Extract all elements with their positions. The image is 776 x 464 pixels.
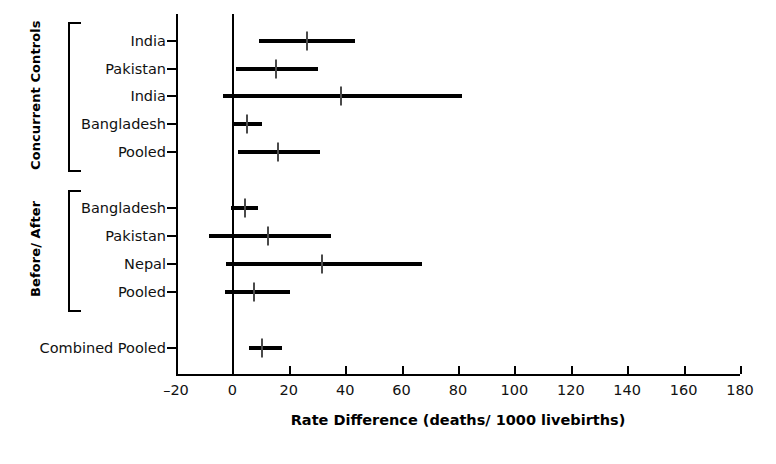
point-estimate-marker bbox=[277, 142, 279, 161]
zero-reference-line bbox=[232, 14, 234, 374]
category-label: Pooled bbox=[118, 284, 166, 299]
category-labels: IndiaPakistanIndiaBangladeshPooledBangla… bbox=[0, 0, 166, 464]
x-axis-tick bbox=[402, 366, 404, 374]
x-axis-tick bbox=[514, 366, 516, 374]
point-estimate-marker bbox=[261, 339, 263, 358]
category-label: India bbox=[130, 89, 166, 104]
x-axis-tick bbox=[458, 366, 460, 374]
category-axis-tick bbox=[167, 263, 176, 265]
x-axis-line bbox=[176, 374, 740, 376]
category-label: India bbox=[130, 34, 166, 49]
x-axis-tick-label: 60 bbox=[392, 382, 410, 398]
x-axis-tick bbox=[684, 366, 686, 374]
category-label: Pakistan bbox=[105, 228, 166, 243]
x-axis-tick-label: 20 bbox=[280, 382, 298, 398]
category-axis-tick bbox=[167, 40, 176, 42]
confidence-interval-bar bbox=[225, 290, 290, 294]
point-estimate-marker bbox=[306, 32, 308, 51]
x-axis-title: Rate Difference (deaths/ 1000 livebirths… bbox=[291, 412, 626, 428]
category-axis-tick bbox=[167, 95, 176, 97]
x-axis-tick-label: 160 bbox=[670, 382, 698, 398]
point-estimate-marker bbox=[267, 226, 269, 245]
category-label: Pakistan bbox=[105, 61, 166, 76]
confidence-interval-bar bbox=[209, 234, 330, 238]
x-axis-tick-label: 100 bbox=[501, 382, 529, 398]
x-axis-tick-label: –20 bbox=[163, 382, 189, 398]
category-label: Bangladesh bbox=[81, 201, 166, 216]
x-axis-tick-label: 80 bbox=[449, 382, 467, 398]
category-label: Combined Pooled bbox=[40, 341, 166, 356]
category-label: Nepal bbox=[124, 256, 166, 271]
confidence-interval-bar bbox=[223, 94, 463, 98]
x-axis-tick bbox=[176, 366, 178, 374]
x-axis-tick-label: 140 bbox=[613, 382, 641, 398]
category-label: Pooled bbox=[118, 144, 166, 159]
x-axis-tick bbox=[289, 366, 291, 374]
category-label: Bangladesh bbox=[81, 117, 166, 132]
point-estimate-marker bbox=[321, 254, 323, 273]
category-axis-tick bbox=[167, 68, 176, 70]
category-axis-tick bbox=[167, 347, 176, 349]
x-axis-tick-label: 120 bbox=[557, 382, 585, 398]
category-axis-tick bbox=[167, 123, 176, 125]
confidence-interval-bar bbox=[249, 346, 282, 350]
x-axis-tick bbox=[571, 366, 573, 374]
x-axis-tick-label: 180 bbox=[726, 382, 754, 398]
category-axis-line bbox=[176, 14, 178, 374]
category-axis-tick bbox=[167, 151, 176, 153]
category-axis-tick bbox=[167, 291, 176, 293]
x-axis-tick bbox=[627, 366, 629, 374]
category-axis-tick bbox=[167, 207, 176, 209]
category-axis-tick bbox=[167, 235, 176, 237]
x-axis-tick-label: 40 bbox=[336, 382, 354, 398]
forest-plot-figure: Concurrent Controls Before/ After IndiaP… bbox=[0, 0, 776, 464]
point-estimate-marker bbox=[340, 87, 342, 106]
confidence-interval-bar bbox=[226, 262, 422, 266]
point-estimate-marker bbox=[253, 282, 255, 301]
point-estimate-marker bbox=[275, 59, 277, 78]
point-estimate-marker bbox=[244, 199, 246, 218]
point-estimate-marker bbox=[246, 115, 248, 134]
x-axis-tick bbox=[345, 366, 347, 374]
x-axis-tick bbox=[232, 366, 234, 374]
x-axis-tick-label: 0 bbox=[228, 382, 237, 398]
x-axis-tick bbox=[740, 366, 742, 374]
